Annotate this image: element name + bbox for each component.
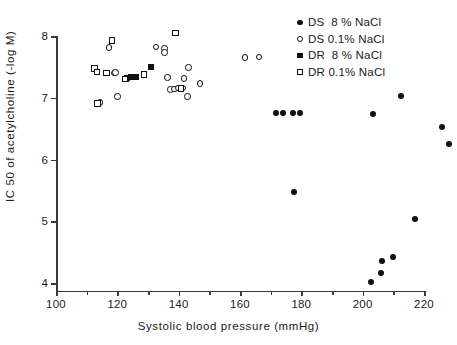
data-point xyxy=(290,110,296,116)
x-tick-minor xyxy=(271,291,273,295)
data-point xyxy=(398,93,404,99)
legend-item-label: DR 8 % NaCl xyxy=(308,49,382,61)
x-tick xyxy=(424,291,426,296)
data-point xyxy=(412,216,418,222)
y-tick-label: 7 xyxy=(41,92,48,104)
filled-square-icon xyxy=(297,53,303,59)
legend-item-label: DS 0.1% NaCl xyxy=(308,33,385,45)
x-tick xyxy=(56,291,58,296)
x-tick-label: 180 xyxy=(291,298,311,310)
data-point xyxy=(379,258,385,264)
data-point xyxy=(368,279,374,285)
data-point xyxy=(242,54,249,61)
y-axis-line xyxy=(56,36,58,292)
x-tick-minor xyxy=(209,291,211,295)
x-tick-label: 120 xyxy=(107,298,127,310)
data-point xyxy=(133,74,139,80)
x-tick xyxy=(117,291,119,296)
data-point xyxy=(280,110,286,116)
data-point xyxy=(273,110,279,116)
x-tick-minor xyxy=(148,291,150,295)
y-tick xyxy=(51,283,56,285)
open-circle-icon xyxy=(297,36,303,42)
y-tick xyxy=(51,36,56,38)
data-point xyxy=(390,254,396,260)
data-point xyxy=(94,69,101,76)
open-square-icon xyxy=(297,69,303,75)
legend-marker-cell xyxy=(292,36,308,42)
x-axis-title: Systolic blood pressure (mmHg) xyxy=(0,320,457,332)
y-tick xyxy=(51,221,56,223)
data-point xyxy=(112,69,119,76)
x-tick-label: 140 xyxy=(169,298,189,310)
data-point xyxy=(297,110,303,116)
y-tick-label: 6 xyxy=(41,154,48,166)
data-point xyxy=(109,37,116,44)
data-point xyxy=(172,30,179,37)
data-point xyxy=(94,100,101,107)
y-tick-label: 5 xyxy=(41,215,48,227)
filled-circle-icon xyxy=(297,20,303,26)
legend-item[interactable]: DS 8 % NaCl xyxy=(292,14,452,31)
data-point xyxy=(153,44,160,51)
data-point xyxy=(164,74,171,81)
legend-marker-cell xyxy=(292,69,308,75)
y-tick-label: 8 xyxy=(41,30,48,42)
y-axis-title-container: IC 50 of acetylcholine (-log M) xyxy=(8,30,24,292)
scatter-chart-figure: IC 50 of acetylcholine (-log M) 45678 10… xyxy=(0,0,457,345)
x-tick-label: 100 xyxy=(46,298,66,310)
x-tick xyxy=(363,291,365,296)
legend-marker-cell xyxy=(292,20,308,26)
data-point xyxy=(148,64,154,70)
chart-legend: DS 8 % NaClDS 0.1% NaClDR 8 % NaClDR 0.1… xyxy=(292,14,452,80)
x-tick-label: 200 xyxy=(353,298,373,310)
data-point xyxy=(439,124,445,130)
x-tick xyxy=(301,291,303,296)
data-point xyxy=(178,85,185,92)
data-point xyxy=(256,54,263,61)
data-point xyxy=(106,44,113,51)
legend-item[interactable]: DS 0.1% NaCl xyxy=(292,31,452,48)
y-axis-title: IC 50 of acetylcholine (-log M) xyxy=(4,31,16,202)
x-tick-minor xyxy=(393,291,395,295)
data-point xyxy=(103,70,110,77)
data-point xyxy=(185,64,192,71)
x-tick-label: 160 xyxy=(230,298,250,310)
data-point xyxy=(446,141,452,147)
data-point xyxy=(161,49,168,56)
legend-item[interactable]: DR 8 % NaCl xyxy=(292,47,452,64)
data-point xyxy=(181,75,188,82)
legend-item-label: DS 8 % NaCl xyxy=(308,16,381,28)
data-point xyxy=(370,111,376,117)
data-point xyxy=(141,71,148,78)
data-point xyxy=(122,76,129,83)
x-tick-minor xyxy=(332,291,334,295)
x-tick-minor xyxy=(87,291,89,295)
x-tick xyxy=(240,291,242,296)
y-tick xyxy=(51,160,56,162)
data-point xyxy=(291,189,297,195)
y-tick xyxy=(51,98,56,100)
x-tick xyxy=(179,291,181,296)
legend-item-label: DR 0.1% NaCl xyxy=(308,66,385,78)
legend-marker-cell xyxy=(292,53,308,59)
data-point xyxy=(114,93,121,100)
x-tick-label: 220 xyxy=(414,298,434,310)
y-tick-label: 4 xyxy=(41,277,48,289)
data-point xyxy=(378,270,384,276)
data-point xyxy=(184,93,191,100)
legend-item[interactable]: DR 0.1% NaCl xyxy=(292,64,452,81)
data-point xyxy=(197,80,204,87)
